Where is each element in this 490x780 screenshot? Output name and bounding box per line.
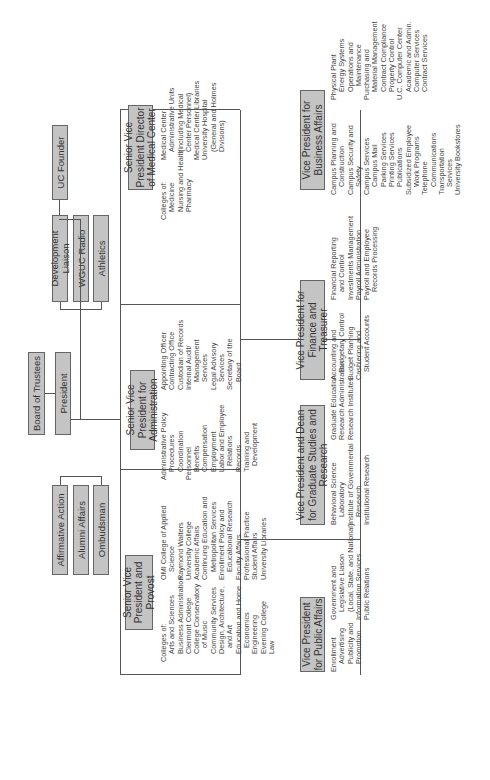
list-item: University Libraries: [260, 470, 268, 580]
list-item: Student Accounts: [363, 290, 371, 380]
graduate-left-list: Behavioral ScienceLaboratoryInstitute of…: [330, 435, 371, 525]
connector: [59, 219, 81, 220]
ombudsman-box: Ombudsman: [93, 485, 109, 575]
connector: [60, 302, 61, 310]
connector: [60, 309, 102, 310]
finance-left-list: Accounting andBudgetary ControlBudget Pl…: [330, 290, 371, 380]
development-liaison-box: Development Liaison: [52, 215, 68, 302]
administration-left-list: Administrative PolicyProceduresCoordinat…: [160, 390, 260, 480]
public-affairs-box: Vice President for Public Affairs: [300, 597, 325, 672]
list-item: Labor and Employee: [218, 390, 226, 480]
connector: [80, 220, 81, 420]
connector: [101, 477, 102, 485]
graduate-studies-box: Vice President and Dean for Graduate Stu…: [300, 405, 325, 525]
list-item: Promotion: [355, 612, 363, 672]
business-left-list: Campus Planning andConstructionCampus Se…: [330, 95, 463, 195]
public-affairs-right-list: Government andLegislative Liason(Local, …: [330, 520, 371, 620]
alumni-affairs-box: Alumni Affairs: [73, 485, 89, 575]
list-item: Records Processing: [371, 210, 379, 300]
finance-right-list: Financial Reportingand ControlInvestment…: [330, 210, 380, 300]
list-item: Law: [268, 592, 276, 662]
athletics-box: Athletics: [93, 215, 109, 302]
list-item: Divisions): [218, 60, 226, 160]
list-item: University Bookstores: [454, 95, 462, 195]
connector: [60, 477, 61, 485]
list-item: Board: [235, 305, 243, 390]
provost-box: Senior Vice President and Provost: [125, 555, 153, 630]
board-of-trustees-box: Board of Trustees: [28, 352, 45, 435]
business-right-list: Physical PlantEnergy SystemsOperations a…: [330, 0, 430, 100]
connector: [60, 476, 102, 477]
president-box: President: [55, 352, 71, 435]
connector: [45, 393, 55, 394]
public-affairs-left-list: EnrollmentAdvertisingPublicity andPromot…: [330, 612, 363, 672]
list-item: Contract Services: [421, 0, 429, 100]
administration-box: Senior Vice President for Administration: [130, 370, 155, 450]
medical-center-box: Senior Vice President Director of Medica…: [128, 105, 153, 190]
list-item: Institutional Research: [363, 435, 371, 525]
connector: [101, 302, 102, 310]
connector: [59, 200, 60, 215]
list-item: Development: [251, 390, 259, 480]
org-chart: Board of Trustees President UC Founder D…: [0, 0, 490, 780]
connector: [71, 419, 121, 420]
administration-right-list: Appointing OfficerContracting OfficeCust…: [160, 305, 243, 390]
list-item: Pharmacy: [185, 150, 193, 220]
medical-left-list: Colleges of:MedicineNursing and HealthPh…: [160, 150, 193, 220]
finance-box: Vice President for Finance and Treasurer: [300, 280, 325, 380]
wguc-radio-box: WGUC Radio: [73, 215, 89, 302]
business-affairs-box: Vice President for Business Affairs: [300, 90, 325, 190]
affirmative-action-box: Affirmative Action: [52, 485, 68, 575]
list-item: Public Relations: [363, 520, 371, 620]
frame-line-left: [120, 674, 240, 675]
uc-founder-box: UC Founder: [52, 125, 68, 200]
medical-right-list: Medical CenterAdministrative Units(inclu…: [160, 60, 226, 160]
provost-right-list: OMI College of AppliedScienceRaymond Wal…: [160, 470, 268, 580]
provost-left-list: Colleges of:Arts and SciencesBusiness Ad…: [160, 592, 276, 662]
